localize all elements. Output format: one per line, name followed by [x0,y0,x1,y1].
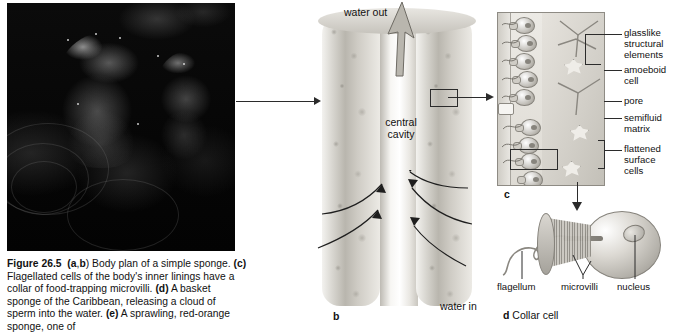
label-water-out: water out [344,6,387,18]
pore-opening [498,103,514,115]
sponge-body-plan-diagram: water out central cavity water in b [288,0,488,327]
glasslike-spicules [556,75,604,119]
label-nucleus: nucleus [617,281,650,292]
label-pore: pore [624,95,643,106]
photo-highlight [157,55,159,57]
label-line-2: structural [624,38,663,49]
label-line-2: surface [624,154,661,165]
leader-line-semifluid [604,118,622,119]
collar-cell-diagram: flagellum microvilli nucleus [495,205,685,295]
panel-d-title: d Collar cell [503,309,558,321]
label-line-2: matrix [624,123,662,134]
photo-highlight [77,103,79,105]
panel-letter-b: b [333,310,339,322]
connector-line-diagram-to-panelc [448,97,488,98]
leader-line-pore [604,101,622,102]
panel-letter-d: d [503,309,509,321]
photo-highlight [137,123,139,125]
photo-highlight [183,63,185,65]
panel-letter-c: c [504,188,510,200]
glasslike-spicules [554,15,604,61]
label-flattened-surface-cells: flattened surface cells [624,143,661,176]
panel-d-title-text: Collar cell [512,309,558,321]
leader-line-amoeboid [604,70,622,71]
photo-highlight [95,33,97,35]
photo-highlight [119,37,121,39]
leader-line-glasslike-c [585,64,601,65]
leader-bracket-glasslike [585,34,586,64]
sponge-specimen-large [49,33,154,168]
sponge-photograph [7,3,235,251]
label-central-cavity-line1: central [379,116,423,128]
label-central-cavity-line2: cavity [379,128,423,140]
label-semifluid-matrix: semifluid matrix [624,112,662,134]
label-flagellum: flagellum [497,281,535,292]
label-glasslike-structural-elements: glasslike structural elements [624,27,663,60]
label-water-in: water in [440,300,477,312]
label-line-3: elements [624,49,663,60]
connector-line-panelc-to-paneld [577,182,578,204]
sponge-specimen-small [150,51,228,161]
figure-number: Figure 26.5 [7,258,62,269]
leader-tick-bottom [598,168,605,169]
reef-texture [11,161,77,213]
water-flow-arrows [316,170,476,310]
label-microvilli: microvilli [561,281,598,292]
label-line-2: cell [624,75,666,86]
label-amoeboid-cell: amoeboid cell [624,64,666,86]
leader-bracket-flattened [604,140,605,168]
connector-arrowhead-diagram-to-panelc [486,93,494,101]
leader-line-glasslike-b [585,34,605,35]
photo-highlight [67,39,69,41]
leader-line-glasslike [604,34,622,35]
figure-caption: Figure 26.5 (a,b) Body plan of a simple … [7,258,247,334]
label-central-cavity: central cavity [379,116,423,141]
label-line-1: glasslike [624,27,663,38]
leader-line-flattened [604,150,622,151]
label-line-1: amoeboid [624,64,666,75]
label-line-1: pore [624,95,643,106]
reef-texture [67,179,179,251]
collar-cell-callout-box [510,149,558,170]
magnification-callout-box [430,89,458,107]
leader-tick-top [598,140,605,141]
sponge-wall-magnification [497,12,605,186]
label-line-1: flattened [624,143,661,154]
label-line-1: semifluid [624,112,662,123]
label-line-3: cells [624,165,661,176]
caption-text: (a,b) Body plan of a simple sponge. (c) … [7,258,246,332]
